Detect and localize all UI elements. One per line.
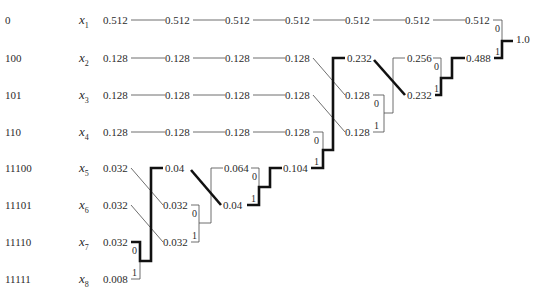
- prob-label: 0.032: [103, 236, 128, 248]
- symbol-x6: x6: [78, 197, 89, 215]
- symbol-x4: x4: [78, 124, 89, 142]
- prob-label: 0.512: [345, 14, 370, 26]
- huffman-tree-diagram: 0 100 101 110 11100 11101 11110 11111 x1…: [0, 0, 546, 300]
- prob-label: 0.512: [465, 14, 490, 26]
- codeword-x8: 11111: [5, 273, 31, 285]
- symbol-x1: x1: [78, 12, 89, 30]
- prob-label: 0.128: [225, 52, 250, 64]
- prob-label: 0.032: [163, 199, 188, 211]
- bit-zero-label: 0: [132, 245, 137, 256]
- prob-label: 0.032: [103, 162, 128, 174]
- prob-label: 0.128: [165, 52, 190, 64]
- prob-label: 0.064: [224, 162, 249, 174]
- codeword-x5: 11100: [5, 162, 32, 174]
- codeword-column: 0 100 101 110 11100 11101 11110 11111: [5, 14, 32, 285]
- codeword-x7: 11110: [5, 236, 32, 248]
- symbol-column: x1 x2 x3 x4 x5 x6 x7 x8: [78, 12, 89, 289]
- codeword-x1: 0: [5, 14, 11, 26]
- prob-label: 0.232: [347, 52, 372, 64]
- bit-one-label: 1: [314, 156, 319, 167]
- row-x8-probabilities: 0.008: [103, 273, 128, 285]
- prob-label: 0.128: [103, 89, 128, 101]
- prob-label: 0.128: [345, 126, 370, 138]
- codeword-x3: 101: [5, 89, 22, 101]
- bit-one-label: 1: [434, 83, 439, 94]
- bit-one-label: 1: [251, 193, 256, 204]
- prob-label: 0.512: [103, 14, 128, 26]
- bit-one-label: 1: [495, 46, 500, 57]
- prob-label: 0.128: [345, 89, 370, 101]
- symbol-x8: x8: [78, 271, 89, 289]
- prob-label: 0.128: [103, 126, 128, 138]
- thick-path-connectors: [131, 41, 513, 261]
- prob-label: 0.128: [285, 126, 310, 138]
- root-probability: 1.0: [516, 33, 530, 45]
- prob-label: 0.256: [407, 52, 432, 64]
- symbol-x5: x5: [78, 160, 89, 178]
- prob-label: 0.488: [466, 52, 491, 64]
- prob-label: 0.128: [165, 89, 190, 101]
- symbol-x3: x3: [78, 87, 89, 105]
- bit-zero-label: 0: [374, 98, 379, 109]
- prob-label: 0.512: [225, 14, 250, 26]
- prob-label: 0.128: [285, 89, 310, 101]
- prob-label: 0.128: [103, 52, 128, 64]
- prob-label: 0.232: [407, 89, 432, 101]
- prob-label: 0.128: [285, 52, 310, 64]
- bit-one-label: 1: [374, 120, 379, 131]
- prob-label: 0.032: [163, 236, 188, 248]
- prob-label: 0.032: [103, 199, 128, 211]
- bit-zero-label: 0: [495, 23, 500, 34]
- bit-zero-label: 0: [314, 135, 319, 146]
- prob-label: 0.512: [165, 14, 190, 26]
- codeword-x4: 110: [5, 126, 22, 138]
- row-x6-probabilities: 0.032 0.032 0.04: [103, 199, 243, 211]
- prob-label: 0.128: [225, 126, 250, 138]
- symbol-x7: x7: [78, 234, 89, 252]
- bit-zero-label: 0: [192, 208, 197, 219]
- prob-label: 0.512: [405, 14, 430, 26]
- prob-label: 0.04: [223, 199, 243, 211]
- bit-one-label: 1: [192, 230, 197, 241]
- bit-zero-label: 0: [252, 171, 257, 182]
- codeword-x2: 100: [5, 52, 22, 64]
- symbol-x2: x2: [78, 50, 89, 68]
- row-x7-probabilities: 0.032 0.032: [103, 236, 188, 248]
- bit-one-label: 1: [132, 267, 137, 278]
- prob-label: 0.512: [285, 14, 310, 26]
- prob-label: 0.008: [103, 273, 128, 285]
- bit-zero-label: 0: [434, 61, 439, 72]
- prob-label: 0.128: [225, 89, 250, 101]
- prob-label: 0.04: [165, 162, 185, 174]
- codeword-x6: 11101: [5, 199, 32, 211]
- prob-label: 0.128: [165, 126, 190, 138]
- prob-label: 0.104: [283, 162, 308, 174]
